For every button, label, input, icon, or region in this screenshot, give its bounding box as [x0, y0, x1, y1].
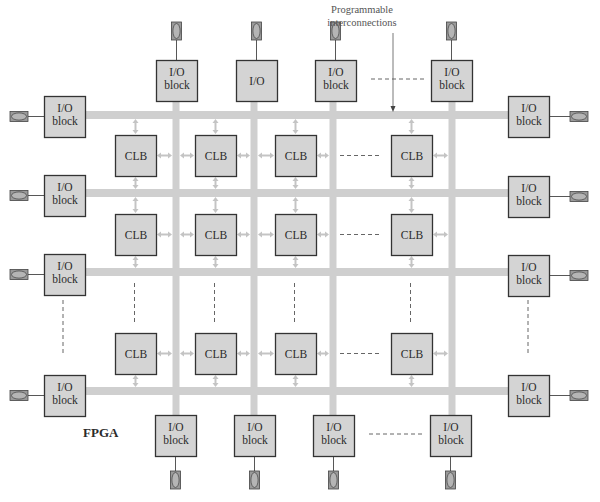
bidirectional-arrow-icon [133, 177, 139, 189]
left-io-block: I/Oblock [45, 97, 86, 138]
left-io-block-label: block [52, 394, 78, 406]
bidirectional-arrow-icon [317, 351, 329, 357]
bidirectional-arrow-icon [180, 153, 194, 159]
bidirectional-arrow-icon [433, 232, 448, 238]
bottom-io-block-label: I/O [443, 421, 458, 433]
top-io-block-label: I/O [444, 66, 459, 78]
bottom-io-block-label: I/O [326, 421, 341, 433]
clb-block-label: CLB [205, 150, 228, 162]
bidirectional-arrow-icon [409, 256, 415, 268]
clb-block-label: CLB [285, 229, 308, 241]
bidirectional-arrow-icon [213, 177, 219, 189]
bidirectional-arrow-icon [433, 153, 448, 159]
top-io-block: I/Oblock [432, 61, 473, 102]
top-io-block-label: block [164, 79, 190, 91]
bidirectional-arrow-icon [237, 232, 250, 238]
top-io-block-label: block [323, 79, 349, 91]
right-io-block-label: block [516, 274, 542, 286]
bidirectional-arrow-icon [293, 375, 299, 387]
bottom-io-block: I/Oblock [431, 416, 472, 457]
clb-block-label: CLB [401, 348, 424, 360]
bidirectional-arrow-icon [409, 375, 415, 387]
left-io-block: I/Oblock [45, 376, 86, 417]
clb-block: CLB [196, 334, 237, 375]
right-io-block-label: I/O [521, 261, 536, 273]
vertical-channel [449, 100, 456, 416]
bidirectional-arrow-icon [213, 197, 219, 213]
bidirectional-arrow-icon [133, 119, 139, 134]
clb-block-label: CLB [125, 150, 148, 162]
left-io-block: I/Oblock [45, 176, 86, 217]
bottom-io-block-label: I/O [168, 421, 183, 433]
bidirectional-arrow-icon [133, 256, 139, 268]
annotation-line-1: Programmable [331, 4, 393, 15]
vertical-channel [330, 100, 337, 416]
vertical-channel [173, 100, 180, 416]
clb-block-label: CLB [401, 229, 424, 241]
io-pin-icon [10, 191, 28, 201]
io-pin-icon [10, 112, 28, 122]
bidirectional-arrow-icon [409, 177, 415, 189]
bottom-io-block: I/Oblock [156, 416, 197, 457]
left-io-block-label: block [52, 273, 78, 285]
right-io-block-label: block [516, 195, 542, 207]
clb-block: CLB [392, 215, 433, 256]
bidirectional-arrow-icon [157, 351, 172, 357]
top-io-block: I/Oblock [157, 61, 198, 102]
bidirectional-arrow-icon [237, 351, 250, 357]
top-io-block-label: I/O [169, 66, 184, 78]
horizontal-channel [85, 189, 510, 197]
bidirectional-arrow-icon [433, 351, 448, 357]
bidirectional-arrow-icon [157, 153, 172, 159]
bidirectional-arrow-icon [258, 232, 274, 238]
clb-block-label: CLB [125, 348, 148, 360]
bidirectional-arrow-icon [157, 232, 172, 238]
left-io-block-label: I/O [57, 181, 72, 193]
bidirectional-arrow-icon [180, 232, 194, 238]
left-io-block-label: I/O [57, 381, 72, 393]
clb-block: CLB [116, 334, 157, 375]
bidirectional-arrow-icon [213, 256, 219, 268]
bidirectional-arrow-icon [317, 153, 329, 159]
io-pin-icon [171, 471, 181, 489]
left-io-block-label: block [52, 194, 78, 206]
bidirectional-arrow-icon [293, 119, 299, 134]
bidirectional-arrow-icon [317, 232, 329, 238]
bottom-io-block-label: block [242, 434, 268, 446]
bottom-io-block: I/Oblock [235, 416, 276, 457]
io-pin-icon [446, 471, 456, 489]
io-pin-icon [252, 22, 262, 40]
top-io-block: I/O [237, 61, 278, 102]
horizontal-channel [85, 111, 510, 119]
clb-block-label: CLB [205, 348, 228, 360]
io-pin-icon [172, 22, 182, 40]
vertical-channel [251, 100, 258, 416]
right-io-block: I/Oblock [509, 97, 550, 138]
left-io-block-label: block [52, 115, 78, 127]
left-io-block: I/Oblock [45, 255, 86, 296]
horizontal-channel [85, 387, 510, 395]
top-io-block-label: block [439, 79, 465, 91]
clb-block-label: CLB [285, 348, 308, 360]
clb-block: CLB [392, 136, 433, 177]
bidirectional-arrow-icon [293, 177, 299, 189]
right-io-block: I/Oblock [509, 177, 550, 218]
right-io-block-label: I/O [521, 381, 536, 393]
bidirectional-arrow-icon [213, 375, 219, 387]
right-io-block-label: I/O [521, 182, 536, 194]
clb-block-label: CLB [401, 150, 424, 162]
right-io-block-label: block [516, 394, 542, 406]
clb-block-label: CLB [205, 229, 228, 241]
annotation-line-2: interconnections [327, 17, 396, 28]
clb-block: CLB [116, 215, 157, 256]
bidirectional-arrow-icon [409, 119, 415, 134]
clb-block: CLB [276, 215, 317, 256]
bidirectional-arrow-icon [237, 153, 250, 159]
clb-block: CLB [276, 136, 317, 177]
clb-block: CLB [276, 334, 317, 375]
bidirectional-arrow-icon [133, 197, 139, 213]
bottom-io-block-label: block [163, 434, 189, 446]
clb-block: CLB [116, 136, 157, 177]
io-pin-icon [250, 471, 260, 489]
right-io-block-label: block [516, 115, 542, 127]
